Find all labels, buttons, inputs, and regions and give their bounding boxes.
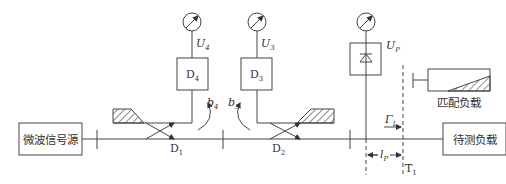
signal-source-label: 微波信号源 <box>23 133 79 147</box>
coupler-d1: D1 <box>113 90 192 157</box>
svg-text:T1: T1 <box>405 162 417 177</box>
matched-load: 匹配负载 <box>413 69 490 110</box>
svg-text:U3: U3 <box>261 37 275 52</box>
matched-load-label: 匹配负载 <box>437 96 482 110</box>
coupler-d2: D2 <box>257 90 334 157</box>
detector-d4: D4 U4 b4 <box>177 13 219 130</box>
voltmeter-icon <box>357 13 375 31</box>
svg-text:ΓL: ΓL <box>384 113 398 128</box>
reflectometer-diagram: 微波信号源 待测负载 D1 D2 D4 U4 b4 <box>0 0 506 184</box>
svg-text:UP: UP <box>386 39 400 54</box>
load-under-test-label: 待测负载 <box>453 133 498 147</box>
voltmeter-icon <box>248 13 266 31</box>
load-under-test-box: 待测负载 <box>443 123 506 155</box>
voltmeter-icon <box>183 13 201 31</box>
svg-text:b3: b3 <box>228 96 240 111</box>
svg-text:D1: D1 <box>170 142 183 157</box>
svg-text:b4: b4 <box>207 96 219 111</box>
svg-text:U4: U4 <box>196 37 210 52</box>
svg-text:D2: D2 <box>272 142 285 157</box>
detector-d3: D3 U3 b3 <box>228 13 275 130</box>
signal-source-box: 微波信号源 <box>19 123 82 155</box>
